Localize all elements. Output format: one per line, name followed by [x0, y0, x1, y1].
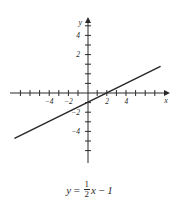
y-axis-group: 4 2 −2 −4 y: [71, 17, 91, 163]
y-tick-label: −4: [71, 127, 80, 136]
y-axis-arrow-icon: [85, 17, 91, 23]
x-tick-label: 4: [125, 97, 129, 106]
x-tick-label: −2: [64, 97, 73, 106]
y-tick-label: 4: [76, 31, 80, 40]
x-axis-group: −4 −2 2 4 x: [10, 90, 170, 106]
y-tick-label: 2: [76, 50, 80, 59]
fraction-denominator: 2: [84, 189, 91, 199]
equation-caption: y=12x−1: [0, 180, 179, 199]
fraction-numerator: 1: [84, 180, 91, 189]
x-tick-label: 2: [105, 97, 109, 106]
x-tick-label: −4: [45, 97, 54, 106]
equation-equals-sign: =: [71, 184, 82, 196]
equation-fraction: 12: [84, 180, 91, 199]
coordinate-plane: −4 −2 2 4 x 4 2 −2 −4: [0, 0, 179, 180]
y-axis-label: y: [77, 18, 82, 27]
equation-minus-sign: −: [96, 184, 107, 196]
equation-constant: 1: [107, 184, 113, 196]
line-graph-figure: −4 −2 2 4 x 4 2 −2 −4: [0, 0, 179, 218]
x-axis-label: x: [163, 96, 168, 105]
